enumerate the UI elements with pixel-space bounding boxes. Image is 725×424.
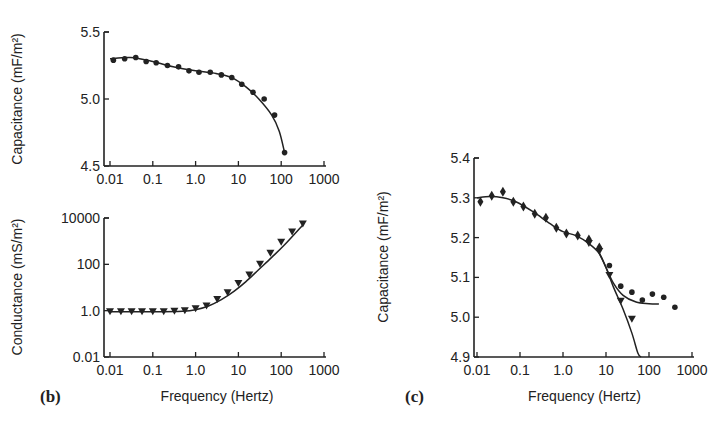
y-tick-label: 100 xyxy=(77,256,101,272)
y-tick-label: 5.4 xyxy=(451,150,471,166)
data-point-triangle xyxy=(256,261,264,268)
data-point-circle xyxy=(618,283,624,289)
y-tick-label: 1.0 xyxy=(81,303,101,319)
x-tick-label: 0.1 xyxy=(510,362,530,378)
x-tick-label: 1.0 xyxy=(553,362,573,378)
y-axis-label: Capacitance (mF/m²) xyxy=(9,33,25,164)
data-point-circle xyxy=(650,291,656,297)
data-point-circle xyxy=(672,304,678,310)
x-tick-label: 100 xyxy=(637,362,661,378)
data-point-circle xyxy=(640,297,646,303)
data-point-circle xyxy=(261,96,267,102)
chart-c: 0.010.11.01010010004.95.05.15.25.35.4Cap… xyxy=(375,150,708,406)
y-tick-label: 4.9 xyxy=(451,349,471,365)
x-tick-label: 100 xyxy=(270,362,294,378)
x-tick-label: 10 xyxy=(231,171,247,187)
y-tick-label: 10000 xyxy=(61,210,100,226)
x-tick-label: 1.0 xyxy=(186,171,206,187)
x-tick-label: 0.01 xyxy=(96,362,123,378)
y-tick-label: 5.3 xyxy=(451,190,471,206)
data-point-diamond xyxy=(489,191,495,201)
y-tick-label: 5.1 xyxy=(451,269,471,285)
fit-curve xyxy=(110,225,303,312)
data-point-triangle xyxy=(628,316,636,323)
x-tick-label: 0.01 xyxy=(96,171,123,187)
data-point-circle xyxy=(607,263,613,269)
x-axis-label: Frequency (Hertz) xyxy=(161,388,274,404)
y-tick-label: 5.0 xyxy=(451,309,471,325)
figure: 0.010.11.01010010004.55.05.5Capacitance … xyxy=(0,0,725,424)
chart-b: 0.010.11.01010010000.011.010010000Conduc… xyxy=(9,210,340,406)
chart-top: 0.010.11.01010010004.55.05.5Capacitance … xyxy=(9,24,340,187)
panel-label: (b) xyxy=(40,387,61,406)
data-point-diamond xyxy=(500,187,506,197)
y-tick-label: 5.2 xyxy=(451,230,471,246)
panel-label: (c) xyxy=(405,387,424,406)
y-axis-label: Conductance (mS/m²) xyxy=(9,219,25,356)
x-tick-label: 1000 xyxy=(308,171,339,187)
fit-curve xyxy=(110,57,285,152)
x-tick-label: 1000 xyxy=(308,362,339,378)
x-tick-label: 0.1 xyxy=(143,362,163,378)
x-axis-label: Frequency (Hertz) xyxy=(528,388,641,404)
x-tick-label: 1.0 xyxy=(186,362,206,378)
fit-curve xyxy=(599,254,641,357)
x-tick-label: 1000 xyxy=(676,362,707,378)
y-tick-label: 5.0 xyxy=(81,91,101,107)
y-tick-label: 4.5 xyxy=(81,158,101,174)
x-tick-label: 10 xyxy=(231,362,247,378)
data-point-circle xyxy=(629,289,635,295)
y-tick-label: 0.01 xyxy=(73,349,100,365)
y-tick-label: 5.5 xyxy=(81,24,101,40)
data-point-circle xyxy=(661,295,667,301)
x-tick-label: 10 xyxy=(598,362,614,378)
fit-curve xyxy=(477,197,659,304)
x-tick-label: 0.1 xyxy=(143,171,163,187)
x-tick-label: 100 xyxy=(270,171,294,187)
y-axis-label: Capacitance (mF/m²) xyxy=(375,191,391,322)
data-point-triangle xyxy=(299,221,307,228)
